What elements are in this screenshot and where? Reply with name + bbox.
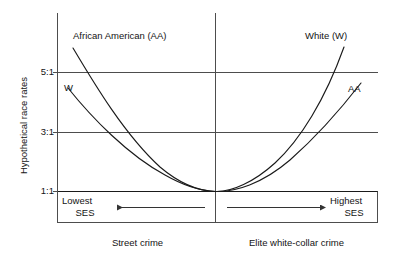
curve-white bbox=[68, 47, 344, 192]
curve-label-african-american-right: AA bbox=[348, 84, 361, 95]
ses-label-highest-line1: Highest bbox=[330, 195, 382, 207]
ses-label-highest-line2: SES bbox=[330, 207, 378, 219]
curve-label-white-left: W bbox=[64, 83, 73, 94]
curve-label-white-right: White (W) bbox=[305, 31, 347, 42]
ses-label-highest: Highest SES bbox=[330, 195, 382, 218]
hypothetical-race-rates-figure: Hypothetical race rates 5:1 3:1 1:1 Afri… bbox=[0, 0, 393, 261]
y-tick-label-5to1: 5:1 bbox=[28, 67, 54, 78]
curve-african-american bbox=[73, 48, 361, 192]
caption-street-crime: Street crime bbox=[60, 238, 215, 249]
ses-label-lowest-line2: SES bbox=[62, 207, 108, 219]
curve-label-african-american-left: African American (AA) bbox=[73, 31, 166, 42]
y-tick-label-1to1: 1:1 bbox=[28, 186, 54, 197]
caption-elite-white-collar-crime: Elite white-collar crime bbox=[215, 238, 378, 249]
ses-label-lowest: Lowest SES bbox=[62, 195, 114, 218]
y-tick-label-3to1: 3:1 bbox=[28, 127, 54, 138]
ses-label-lowest-line1: Lowest bbox=[62, 195, 114, 207]
